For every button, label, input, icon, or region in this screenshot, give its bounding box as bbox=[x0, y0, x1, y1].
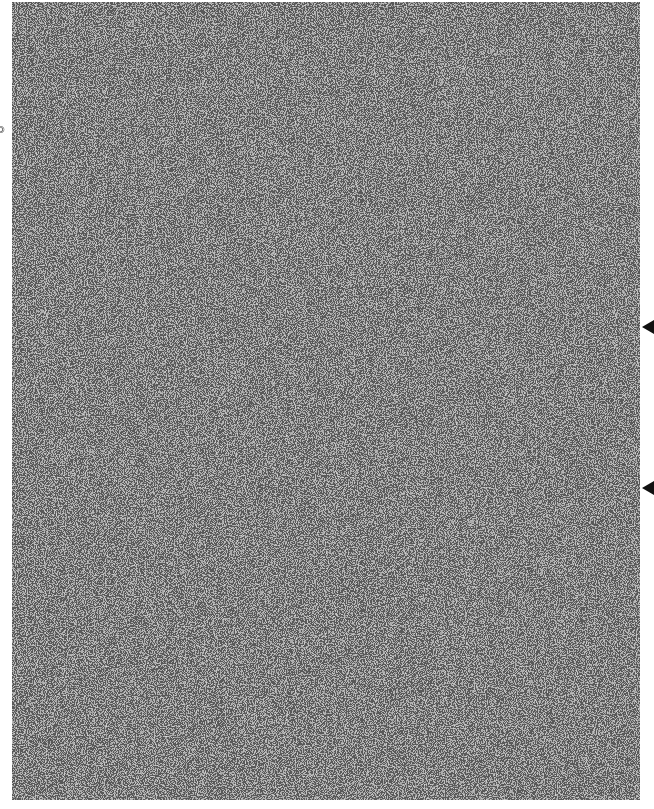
side-label: © bbox=[0, 4, 8, 134]
noise-image bbox=[12, 2, 640, 800]
triangle-left-icon[interactable] bbox=[642, 320, 654, 334]
triangle-left-icon[interactable] bbox=[642, 481, 654, 495]
